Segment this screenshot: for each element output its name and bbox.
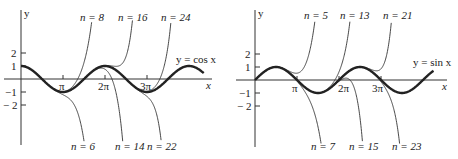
taylor-approximation-figure: y x 2 1 −1 − 2 π 2π 3π y = cos x n = 8 n…	[0, 0, 458, 159]
cos-y-axis-label: y	[24, 7, 30, 19]
sin-xtick-label-3pi: 3π	[372, 82, 384, 94]
label-n15: n = 15	[349, 140, 379, 152]
sin-ytick-label-2: 2	[245, 48, 251, 60]
cos-ytick-label-m2: − 2	[3, 99, 17, 111]
cos-panel: y x 2 1 −1 − 2 π 2π 3π y = cos x n = 8 n…	[3, 7, 217, 152]
label-n14: n = 14	[115, 140, 145, 152]
taylor-poly-n22	[21, 66, 161, 140]
label-n23: n = 23	[392, 140, 422, 152]
taylor-poly-n6	[21, 66, 84, 141]
taylor-poly-n7	[255, 67, 321, 143]
label-n22: n = 22	[147, 140, 177, 152]
cos-xtick-label-2pi: 2π	[98, 80, 110, 92]
cos-ytick-label-1: 1	[11, 60, 17, 72]
cos-ytick-label-2: 2	[11, 47, 17, 59]
taylor-poly-n21	[255, 23, 391, 93]
sin-ytick-label-1: 1	[245, 61, 251, 73]
sin-panel: y x 2 1 −1 − 2 π 2π 3π y = sin x n = 5 n…	[236, 7, 452, 152]
cos-xtick-label-pi: π	[59, 80, 65, 92]
sin-x-axis-label: x	[441, 80, 447, 92]
cos-x-axis-label: x	[205, 79, 211, 91]
cos-ytick-label-m1: −1	[5, 86, 17, 98]
label-n16: n = 16	[118, 11, 148, 23]
sin-function-label: y = sin x	[413, 56, 452, 68]
label-n6: n = 6	[71, 140, 95, 152]
label-n8: n = 8	[80, 11, 104, 23]
label-n7: n = 7	[311, 140, 335, 152]
sin-ytick-label-m1: −1	[239, 87, 251, 99]
sin-xtick-label-2pi: 2π	[338, 82, 350, 94]
taylor-poly-n15	[255, 67, 362, 141]
sin-ytick-label-m2: − 2	[237, 100, 251, 112]
label-n5: n = 5	[304, 9, 328, 21]
sin-y-axis-label: y	[258, 7, 264, 19]
label-n21: n = 21	[383, 9, 412, 21]
label-n24: n = 24	[161, 11, 191, 23]
taylor-poly-n14	[21, 66, 123, 141]
label-n13: n = 13	[340, 9, 370, 21]
cos-function-label: y = cos x	[176, 53, 217, 65]
sin-xtick-label-pi: π	[292, 82, 298, 94]
